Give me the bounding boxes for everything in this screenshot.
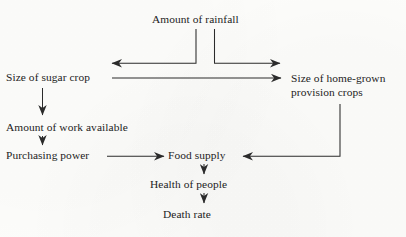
node-size-of-sugar-crop: Size of sugar crop (6, 71, 90, 84)
edge-provision-crops-to-food-supply (243, 104, 340, 156)
node-label: Size of sugar crop (6, 71, 90, 83)
node-label: Amount of rainfall (152, 13, 239, 25)
node-label: Amount of work available (6, 121, 128, 133)
node-amount-of-rainfall: Amount of rainfall (152, 13, 239, 26)
node-label-line-1: Size of home-grown (291, 72, 385, 84)
edge-rainfall-to-sugar-crop (112, 29, 196, 63)
node-size-of-home-grown-provision-crops: Size of home-grown provision crops (291, 71, 403, 99)
node-label: Food supply (168, 149, 226, 161)
node-food-supply: Food supply (168, 149, 226, 162)
node-health-of-people: Health of people (150, 178, 227, 191)
diagram-connector-layer (0, 0, 406, 237)
node-purchasing-power: Purchasing power (6, 149, 89, 162)
node-death-rate: Death rate (163, 208, 211, 221)
running-head (0, 0, 406, 7)
node-label: Health of people (150, 178, 227, 190)
node-label-line-2: provision crops (291, 86, 363, 98)
node-label: Purchasing power (6, 149, 89, 161)
node-label: Death rate (163, 208, 211, 220)
edge-rainfall-to-provision-crops (215, 29, 281, 63)
scanned-page: Amount of rainfall Size of sugar crop Si… (0, 0, 406, 237)
node-amount-of-work-available: Amount of work available (6, 121, 128, 134)
